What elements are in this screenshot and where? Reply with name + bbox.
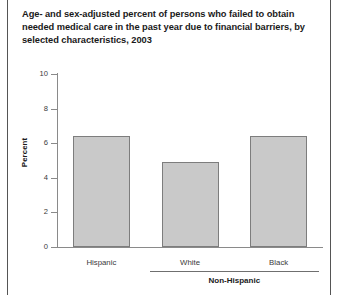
category-label-white: White: [140, 258, 240, 267]
y-tick-label: 2: [8, 208, 48, 216]
group-label-non-hispanic: Non-Hispanic: [150, 276, 319, 285]
y-axis-title: Percent: [20, 123, 29, 183]
y-tick-mark: [51, 212, 57, 213]
chart-title: Age- and sex-adjusted percent of persons…: [22, 8, 322, 48]
y-tick-mark: [51, 247, 57, 248]
y-tick-label: 0: [8, 243, 48, 251]
y-axis-line: [57, 73, 58, 248]
bar-hispanic: [73, 136, 130, 247]
bar-white: [162, 162, 219, 247]
y-tick-mark: [51, 143, 57, 144]
frame-right-border: [330, 0, 331, 295]
bar-black: [250, 136, 307, 247]
y-tick-mark: [51, 74, 57, 75]
group-bracket-line: [150, 271, 319, 272]
y-tick-label: 10: [8, 70, 48, 78]
y-tick-label: 8: [8, 105, 48, 113]
x-axis-line: [57, 247, 323, 248]
category-label-hispanic: Hispanic: [51, 258, 151, 267]
chart-figure: Age- and sex-adjusted percent of persons…: [0, 0, 351, 295]
y-tick-mark: [51, 178, 57, 179]
category-label-black: Black: [229, 258, 329, 267]
y-tick-mark: [51, 109, 57, 110]
